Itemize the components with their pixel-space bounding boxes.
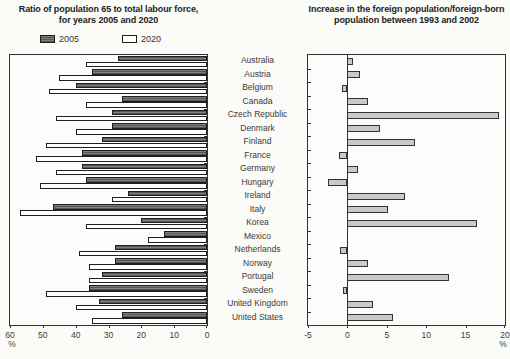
category-tick (204, 150, 207, 151)
axis-tick (174, 325, 175, 328)
left-chart-title: Ratio of population 65 to total labour f… (9, 4, 208, 26)
bar-netherlands (340, 247, 347, 254)
bar-portugal (347, 274, 449, 281)
axis-tick (426, 325, 427, 328)
category-tick (308, 150, 311, 151)
bar-2020-netherlands (79, 251, 207, 257)
axis-tick-label: 20 (137, 330, 146, 340)
country-labels: AustraliaAustriaBelgiumCanadaCzech Repub… (208, 54, 307, 324)
category-tick (308, 217, 311, 218)
category-tick (204, 177, 207, 178)
bar-2020-canada (86, 102, 207, 108)
bar-austria (347, 71, 360, 78)
right-chart-title-line2: population between 1993 and 2002 (307, 15, 506, 26)
category-tick (308, 190, 311, 191)
category-tick (308, 96, 311, 97)
left-chart-title-line1: Ratio of population 65 to total labour f… (9, 4, 208, 15)
bar-2020-united-states (92, 318, 207, 324)
axis-tick (308, 325, 309, 328)
axis-unit-label: % (8, 339, 16, 349)
category-tick (204, 271, 207, 272)
country-label: United Kingdom (208, 297, 307, 311)
category-tick (308, 109, 311, 110)
right-chart-title-line1: Increase in the foreign population/forei… (307, 4, 506, 15)
bar-2020-germany (56, 170, 207, 176)
country-label: Mexico (208, 230, 307, 244)
axis-tick-label: 5 (384, 330, 389, 340)
bar-2020-belgium (49, 89, 207, 95)
axis-tick (141, 325, 142, 328)
axis-tick-label: 15 (461, 330, 470, 340)
legend-swatch-2020 (122, 35, 137, 43)
bar-2020-sweden (46, 291, 207, 297)
category-tick (204, 231, 207, 232)
country-label: Portugal (208, 270, 307, 284)
country-label: Canada (208, 95, 307, 109)
zero-line (347, 55, 348, 325)
legend-swatch-2005 (40, 35, 55, 43)
country-label: Belgium (208, 81, 307, 95)
axis-tick-label: 50 (38, 330, 47, 340)
bar-2020-czech-republic (56, 116, 207, 122)
axis-tick (206, 325, 207, 328)
category-tick (204, 204, 207, 205)
country-label: Sweden (208, 284, 307, 298)
right-chart-plot-area: -505101520% (307, 54, 506, 326)
bar-norway (347, 260, 367, 267)
category-tick (204, 190, 207, 191)
bar-2020-portugal (89, 278, 207, 284)
country-label: Norway (208, 257, 307, 271)
bar-2020-mexico (148, 237, 207, 243)
axis-tick-label: 0 (345, 330, 350, 340)
axis-unit-label: % (499, 339, 507, 349)
category-tick (308, 298, 311, 299)
category-tick (308, 204, 311, 205)
axis-tick (347, 325, 348, 328)
category-tick (204, 136, 207, 137)
left-chart-plot-area: 6050403020100% (9, 54, 208, 326)
bar-germany (347, 166, 357, 173)
axis-tick (466, 325, 467, 328)
axis-tick-label: 10 (421, 330, 430, 340)
country-label: United States (208, 311, 307, 325)
axis-tick (76, 325, 77, 328)
category-tick (308, 177, 311, 178)
country-label: Australia (208, 54, 307, 68)
axis-tick-label: 30 (104, 330, 113, 340)
category-tick (308, 163, 311, 164)
category-tick (204, 258, 207, 259)
bar-2020-hungary (40, 183, 207, 189)
legend-label-2005: 2005 (59, 34, 79, 44)
bar-2020-australia (86, 62, 207, 68)
bar-canada (347, 98, 367, 105)
category-tick (308, 312, 311, 313)
country-label: France (208, 149, 307, 163)
bar-2020-austria (59, 75, 207, 81)
bar-denmark (347, 125, 379, 132)
category-tick (308, 244, 311, 245)
left-chart-title-line2: for years 2005 and 2020 (9, 15, 208, 26)
axis-tick (43, 325, 44, 328)
axis-tick-label: 40 (71, 330, 80, 340)
country-label: Ireland (208, 189, 307, 203)
country-label: Korea (208, 216, 307, 230)
category-tick (204, 244, 207, 245)
category-tick (204, 96, 207, 97)
bar-sweden (343, 287, 347, 294)
category-tick (308, 82, 311, 83)
category-tick (204, 123, 207, 124)
category-tick (204, 285, 207, 286)
legend-item-2005: 2005 (40, 34, 79, 44)
axis-tick (387, 325, 388, 328)
legend-item-2020: 2020 (122, 34, 161, 44)
bar-australia (347, 58, 353, 65)
country-label: Austria (208, 68, 307, 82)
bar-united-kingdom (347, 301, 372, 308)
bar-2020-united-kingdom (76, 305, 207, 311)
bar-ireland (347, 193, 405, 200)
country-label: Italy (208, 203, 307, 217)
bar-2020-norway (89, 264, 207, 270)
country-label: Denmark (208, 122, 307, 136)
bar-korea (347, 220, 477, 227)
category-tick (204, 217, 207, 218)
